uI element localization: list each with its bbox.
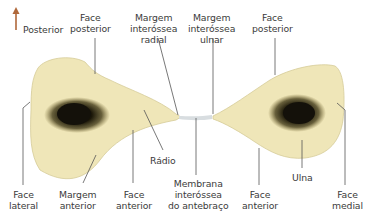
interosseous-membrane xyxy=(179,115,212,120)
label-line: ulnar xyxy=(188,34,235,45)
label-line: Margem xyxy=(188,12,235,23)
posterior-arrow-icon xyxy=(13,7,20,30)
ulna-bone xyxy=(213,65,344,159)
label-line: interóssea xyxy=(130,23,177,34)
label-line: Face xyxy=(332,189,363,200)
label-line: Face xyxy=(70,12,111,23)
label-line: Face xyxy=(9,189,38,200)
label-face-lateral: Face lateral xyxy=(9,189,38,211)
label-line: radial xyxy=(130,34,177,45)
label-line: Face xyxy=(242,189,278,200)
label-radio: Rádio xyxy=(150,155,176,166)
label-face-anterior-ulna: Face anterior xyxy=(242,189,278,211)
label-line: interóssea xyxy=(188,23,235,34)
label-line: do antebraço xyxy=(168,200,229,211)
label-line: Margem xyxy=(59,189,96,200)
label-line: interóssea xyxy=(168,189,229,200)
label-face-medial: Face medial xyxy=(332,189,363,211)
label-face-posterior-radius: Face posterior xyxy=(70,12,111,34)
label-line: medial xyxy=(332,200,363,211)
label-line: posterior xyxy=(70,23,111,34)
label-line: anterior xyxy=(59,200,96,211)
orientation-label-posterior: Posterior xyxy=(23,24,63,35)
label-line: Membrana xyxy=(168,178,229,189)
label-margem-interossea-ulnar: Margem interóssea ulnar xyxy=(188,12,235,45)
label-membrana-interossea: Membrana interóssea do antebraço xyxy=(168,178,229,211)
label-face-anterior-radius: Face anterior xyxy=(116,189,152,211)
label-face-posterior-ulna: Face posterior xyxy=(252,12,293,34)
label-line: Face xyxy=(252,12,293,23)
label-line: posterior xyxy=(252,23,293,34)
label-margem-interossea-radial: Margem interóssea radial xyxy=(130,12,177,45)
forearm-cross-section-diagram: Posterior Face posterior Margem interóss… xyxy=(0,0,367,221)
label-line: Margem xyxy=(130,12,177,23)
label-line: Face xyxy=(116,189,152,200)
label-margem-anterior: Margem anterior xyxy=(59,189,96,211)
label-ulna: Ulna xyxy=(292,172,313,183)
label-line: anterior xyxy=(116,200,152,211)
label-line: anterior xyxy=(242,200,278,211)
label-line: lateral xyxy=(9,200,38,211)
